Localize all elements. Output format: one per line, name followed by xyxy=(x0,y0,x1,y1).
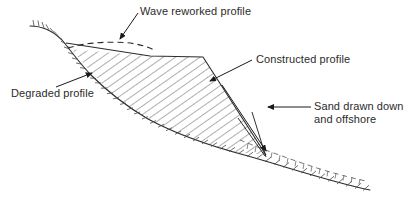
constructed-profile-hatched-fill xyxy=(66,42,266,155)
label-degraded-profile: Degraded profile xyxy=(11,87,94,100)
label-sand-line-1: Sand drawn down xyxy=(314,100,404,113)
label-sand-drawn-down: Sand drawn down and offshore xyxy=(314,100,404,126)
wave-reworked-profile-dashed xyxy=(68,42,153,49)
label-wave-reworked-profile: Wave reworked profile xyxy=(140,5,251,18)
label-sand-line-2: and offshore xyxy=(314,113,404,126)
wave-reworked-leader xyxy=(120,13,138,39)
constructed-leader xyxy=(210,60,252,81)
degraded-leader xyxy=(56,73,92,87)
label-constructed-profile: Constructed profile xyxy=(256,53,350,66)
diagram-canvas: Wave reworked profile Constructed profil… xyxy=(0,0,418,212)
